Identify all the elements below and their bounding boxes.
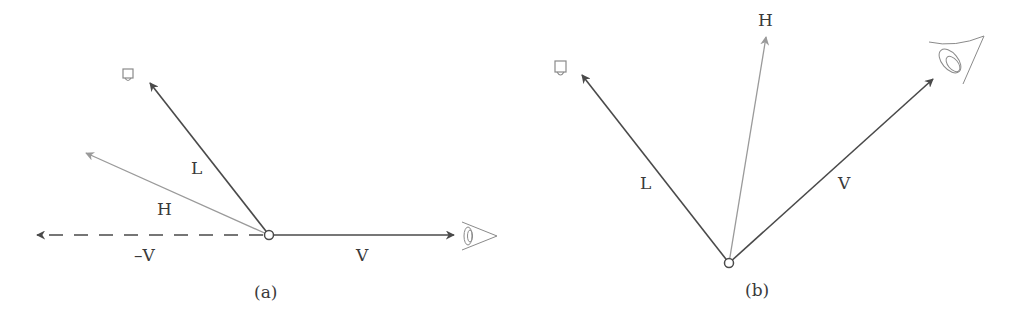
eye-icon (462, 222, 497, 250)
surface-point-b (725, 259, 734, 268)
panel-b: L H V (b) (555, 10, 984, 300)
reflection-vectors-diagram: L H –V V (a) L H V (b) (0, 0, 1021, 314)
label-neg-v-a: –V (134, 245, 156, 265)
light-source-icon (123, 69, 133, 81)
vector-l-b (582, 75, 729, 263)
vector-v-b (729, 79, 933, 263)
caption-b: (b) (745, 280, 769, 300)
vector-h-a (86, 153, 269, 235)
label-v-a: V (355, 245, 369, 265)
label-v-b: V (837, 173, 851, 193)
panel-a: L H –V V (a) (37, 69, 497, 302)
label-h-b: H (758, 10, 773, 30)
surface-point-a (265, 231, 274, 240)
label-l-a: L (191, 158, 202, 178)
vector-h-b (729, 37, 766, 263)
label-l-b: L (640, 173, 651, 193)
caption-a: (a) (254, 282, 277, 302)
light-source-icon (555, 61, 566, 75)
label-h-a: H (157, 199, 172, 219)
eye-icon (929, 36, 984, 84)
